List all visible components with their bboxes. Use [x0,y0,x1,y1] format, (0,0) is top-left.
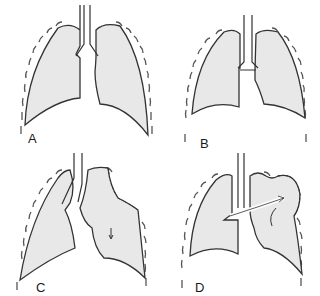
lungs-tension-pneumothorax-illustration [160,148,320,296]
panel-a: A [0,0,160,148]
lungs-bilateral-illustration [160,0,320,148]
panel-label-d: D [195,280,204,295]
panel-label-a: A [28,131,37,146]
lungs-normal-illustration [0,0,160,148]
panel-c: C [0,148,160,296]
panel-d: D [160,148,320,296]
lungs-pneumothorax-illustration [0,148,160,296]
panel-b: B [160,0,320,148]
panel-label-c: C [36,280,45,295]
